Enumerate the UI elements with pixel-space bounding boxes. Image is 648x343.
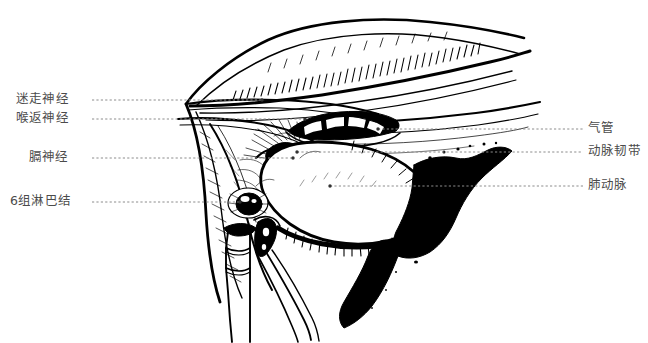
label-ligamentum-arteriosum: 动脉韧带 (588, 145, 641, 158)
leader-dot-trachea (376, 127, 379, 130)
label-vagus-nerve: 迷走神经 (16, 93, 69, 106)
leader-dot-group-6-lymph-nodes (238, 200, 241, 203)
label-group-6-lymph-nodes: 6组淋巴结 (10, 195, 71, 208)
leader-lines-layer (0, 0, 648, 343)
illustration-page: 迷走神经 喉返神经 膈神经 6组淋巴结 气管 动脉韧带 肺动脉 (0, 0, 648, 343)
leader-dot-recurrent-laryngeal (303, 117, 306, 120)
leader-dot-ligamentum-arteriosum (295, 150, 298, 153)
label-recurrent-laryngeal-nerve: 喉返神经 (16, 112, 69, 125)
label-trachea: 气管 (588, 122, 614, 135)
leader-dot-phrenic-nerve (291, 156, 294, 159)
label-pulmonary-artery: 肺动脉 (588, 179, 628, 192)
leader-dot-vagus-nerve (260, 98, 263, 101)
leader-dot-pulmonary-artery (328, 184, 331, 187)
label-phrenic-nerve: 膈神经 (29, 151, 69, 164)
